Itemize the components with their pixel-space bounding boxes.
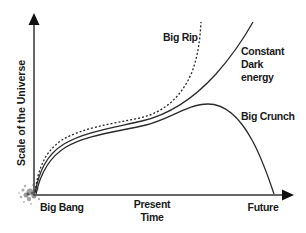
big-rip-label: Big Rip	[163, 31, 198, 43]
y-axis-label: Scale of the Universe	[15, 60, 27, 166]
big-crunch-label: Big Crunch	[241, 110, 295, 122]
y-axis-arrow-icon	[29, 13, 40, 25]
universe-fate-diagram: Scale of the Universe Big Bang Present T…	[0, 0, 306, 233]
time-label: Time	[140, 211, 164, 223]
present-label: Present	[134, 198, 171, 210]
y-axis	[29, 13, 40, 196]
dark-label: Dark	[241, 58, 264, 70]
constant-label: Constant	[241, 45, 285, 57]
energy-label: energy	[241, 71, 274, 83]
big-bang-label: Big Bang	[40, 201, 84, 213]
constant-dark-energy-curve	[35, 22, 253, 193]
future-label: Future	[248, 201, 279, 213]
x-axis-arrow-icon	[282, 190, 294, 201]
